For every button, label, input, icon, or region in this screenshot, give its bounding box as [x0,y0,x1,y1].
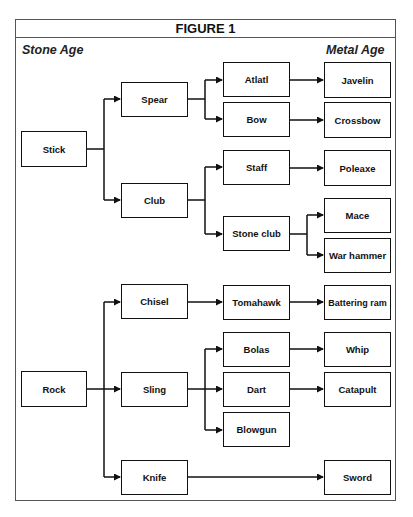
node-bow: Bow [223,102,290,137]
node-battering-ram: Battering ram [324,285,391,320]
node-mace: Mace [324,198,391,233]
node-dart: Dart [223,372,290,407]
node-war-hammer: War hammer [324,238,391,273]
node-stone-club: Stone club [223,216,290,251]
node-spear: Spear [121,82,188,117]
node-club: Club [121,183,188,218]
node-sling: Sling [121,372,188,407]
node-staff: Staff [223,150,290,185]
node-blowgun: Blowgun [223,412,290,447]
node-catapult: Catapult [324,372,391,407]
node-stick: Stick [21,131,87,167]
node-crossbow: Crossbow [324,102,391,138]
node-javelin: Javelin [324,62,391,98]
node-sword: Sword [324,460,391,495]
node-tomahawk: Tomahawk [223,285,290,320]
node-whip: Whip [324,332,391,367]
node-atlatl: Atlatl [223,62,290,97]
node-chisel: Chisel [121,284,188,319]
node-rock: Rock [21,371,87,407]
node-knife: Knife [121,460,188,495]
node-bolas: Bolas [223,332,290,367]
node-poleaxe: Poleaxe [324,150,391,186]
